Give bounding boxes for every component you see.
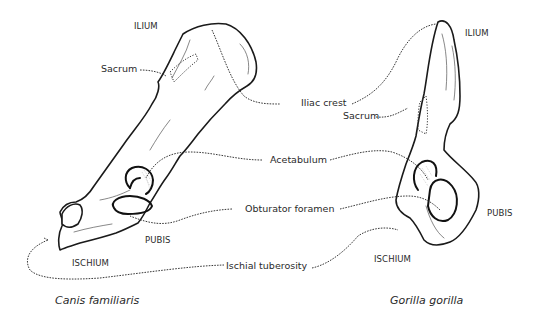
dog-ischium-label: ISCHIUM [72, 259, 109, 268]
gorilla-sacrum-label: Sacrum [343, 111, 379, 121]
dog-innominate-bone [59, 23, 257, 250]
gorilla-ilium-label: ILIUM [465, 29, 489, 38]
ischial-tuberosity-label: Ischial tuberosity [226, 261, 307, 271]
obturator-foramen-label: Obturator foramen [245, 204, 334, 214]
iliac-crest-label: Iliac crest [301, 98, 347, 108]
dog-sacrum-label: Sacrum [101, 64, 137, 74]
gorilla-species-caption: Gorilla gorilla [390, 295, 463, 306]
gorilla-innominate-bone [396, 21, 479, 245]
acetabulum-label: Acetabulum [270, 155, 327, 165]
dog-species-caption: Canis familiaris [55, 295, 139, 306]
gorilla-pubis-label: PUBIS [487, 209, 513, 218]
dog-pubis-label: PUBIS [145, 236, 171, 245]
gorilla-ischium-label: ISCHIUM [374, 255, 411, 264]
dog-ilium-label: ILIUM [134, 22, 158, 31]
